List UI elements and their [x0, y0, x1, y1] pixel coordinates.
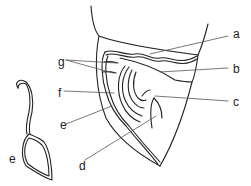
leader-b [160, 68, 228, 72]
label-a: a [233, 28, 240, 40]
main-structure [91, 6, 208, 166]
label-b: b [233, 63, 240, 75]
leader-lines [64, 36, 228, 160]
leader-c [155, 96, 228, 101]
leader-d [85, 116, 156, 160]
label-e: e [60, 119, 67, 131]
label-e-detached: e [9, 153, 16, 165]
label-g: g [58, 56, 65, 68]
leader-a [150, 36, 228, 54]
label-d: d [79, 160, 86, 172]
botanical-diagram [0, 0, 251, 186]
detached-structure-e [17, 80, 52, 180]
label-c: c [233, 96, 239, 108]
label-f: f [58, 87, 61, 99]
